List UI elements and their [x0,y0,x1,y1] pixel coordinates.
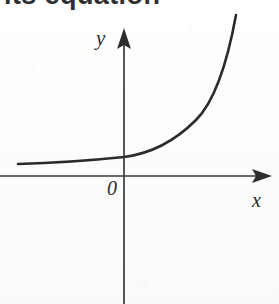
figure-container: its equation y x 0 [0,0,279,304]
coordinate-plot [0,0,279,304]
y-axis-label: y [96,28,105,49]
origin-label: 0 [107,178,117,198]
x-axis-label: x [252,190,261,210]
